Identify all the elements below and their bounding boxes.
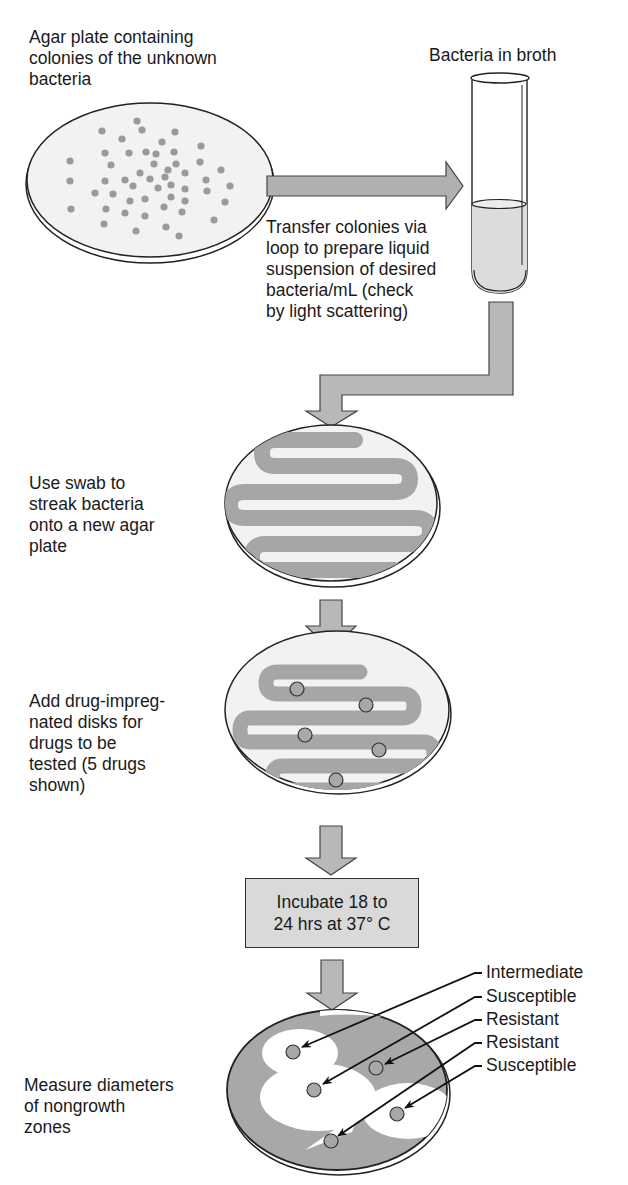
- result-label-intermediate: Intermediate: [486, 962, 583, 983]
- swab-label: Use swab to streak bacteria onto a new a…: [29, 473, 155, 557]
- incubate-box: Incubate 18 to 24 hrs at 37° C: [245, 878, 419, 948]
- agar-plate-label: Agar plate containing colonies of the un…: [29, 27, 217, 90]
- diagram-graphics: [0, 0, 628, 1185]
- broth-label: Bacteria in broth: [429, 45, 556, 66]
- measure-label: Measure diameters of nongrowth zones: [24, 1075, 174, 1138]
- arrow-down-3: [306, 826, 356, 875]
- agar-plate-colonies: [26, 103, 274, 263]
- agar-plate-streaked: [225, 425, 440, 587]
- test-tube-broth: [471, 73, 529, 293]
- result-label-resistant-2: Resistant: [486, 1032, 559, 1053]
- disks-label: Add drug-impreg- nated disks for drugs t…: [29, 691, 165, 796]
- result-label-susceptible-2: Susceptible: [486, 1055, 576, 1076]
- arrow-right: [267, 162, 463, 209]
- agar-plate-drug-disks: [225, 631, 451, 794]
- arrow-down-4: [307, 960, 357, 1010]
- result-label-resistant-1: Resistant: [486, 1009, 559, 1030]
- agar-plate-inhibition-zones: [227, 973, 482, 1175]
- transfer-label: Transfer colonies via loop to prepare li…: [266, 217, 436, 322]
- result-label-susceptible-1: Susceptible: [486, 986, 576, 1007]
